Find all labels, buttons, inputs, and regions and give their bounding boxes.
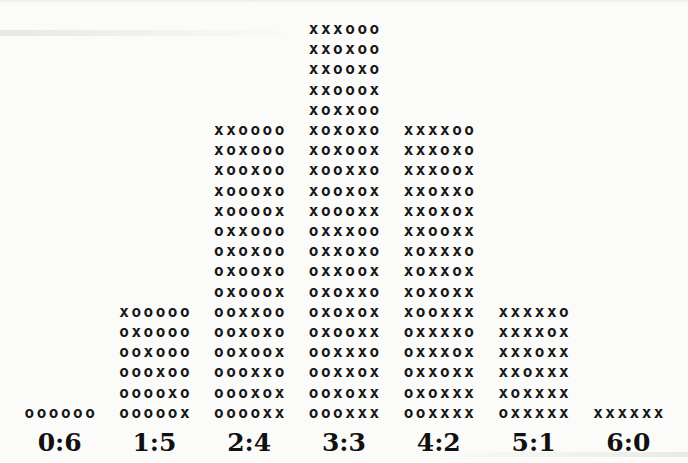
arrangement-row: oxxxxx [496,403,571,423]
arrangement-stack: xxooooxoxoooxooxooxoooxoxooooxoxxooooxox… [212,120,287,423]
arrangement-row: xxoxoo [306,39,381,59]
arrangement-row: ooxxox [306,362,381,382]
arrangement-stack: xooooooxooooooxooooooxooooooxoooooox [117,302,192,423]
arrangement-row: xoooxo [212,181,287,201]
arrangement-row: xoxoox [306,140,381,160]
arrangement-row: oooxox [212,383,287,403]
column-4-2: xxxxooxxxoxoxxxooxxxoxxoxxoxoxxxooxxxoxx… [401,120,476,455]
arrangement-row: xoxxoo [306,100,381,120]
arrangement-row: xoooox [212,201,287,221]
arrangement-row: oooxxx [306,403,381,423]
column-3-3: xxxoooxxoxooxxooxoxxoooxxoxxooxoxoxoxoxo… [306,19,381,455]
arrangement-row: oxoxoo [212,241,287,261]
arrangement-row: oxxxxo [401,322,476,342]
arrangement-row: xoxxox [401,261,476,281]
arrangement-row: oxxxox [401,342,476,362]
arrangement-row: oxoxox [306,302,381,322]
arrangement-row: oooooo [22,403,97,423]
figure-canvas: oooooo0:6xooooooxooooooxooooooxooooooxoo… [0,0,688,463]
arrangement-row: xooxxo [306,160,381,180]
arrangement-row: oxxoxx [401,362,476,382]
column-label: 6:0 [606,430,650,455]
arrangement-row: oxoxxx [401,383,476,403]
arrangement-row: xooxxx [401,302,476,322]
arrangement-row: oooxxo [212,362,287,382]
arrangement-row: xxxoxo [401,140,476,160]
arrangement-row: oxooox [212,282,287,302]
column-0-6: oooooo0:6 [22,403,97,455]
arrangement-stack: xxxxxoxxxxoxxxxoxxxxoxxxxoxxxxoxxxxx [496,302,571,423]
arrangement-row: xooooo [117,302,192,322]
arrangement-row: ooxxxx [401,403,476,423]
arrangement-dotplot: oooooo0:6xooooooxooooooxooooooxooooooxoo… [22,10,666,455]
arrangement-row: xxxxoo [401,120,476,140]
arrangement-stack: xxxoooxxoxooxxooxoxxoooxxoxxooxoxoxoxoxo… [306,19,381,423]
arrangement-row: xoxoxo [306,120,381,140]
arrangement-row: oxooxo [212,261,287,281]
arrangement-row: xxxxxx [591,403,666,423]
arrangement-row: xooxoo [212,160,287,180]
arrangement-row: xxooxo [306,59,381,79]
column-2-4: xxooooxoxoooxooxooxoooxoxooooxoxxooooxox… [212,120,287,455]
column-label: 4:2 [417,430,461,455]
arrangement-row: xxooox [306,80,381,100]
arrangement-row: xoxxxx [496,383,571,403]
arrangement-row: oxoooo [117,322,192,342]
arrangement-row: ooooxo [117,383,192,403]
column-label: 1:5 [132,430,176,455]
arrangement-row: ooooxx [212,403,287,423]
arrangement-row: xoooxx [306,201,381,221]
arrangement-row: oxxoox [306,261,381,281]
arrangement-row: oxxxoo [306,221,381,241]
arrangement-row: xxxxox [496,322,571,342]
arrangement-row: ooxxxo [306,342,381,362]
arrangement-row: oxxoxo [306,241,381,261]
arrangement-stack: xxxxooxxxoxoxxxooxxxoxxoxxoxoxxxooxxxoxx… [401,120,476,423]
column-label: 5:1 [512,430,556,455]
column-5-1: xxxxxoxxxxoxxxxoxxxxoxxxxoxxxxoxxxxx5:1 [496,302,571,455]
arrangement-row: xxxoox [401,160,476,180]
arrangement-row: xxxoxx [496,342,571,362]
arrangement-row: ooxooo [117,342,192,362]
column-label: 2:4 [227,430,271,455]
arrangement-row: ooxoxx [306,383,381,403]
arrangement-row: xxooxx [401,221,476,241]
arrangement-row: xxxooo [306,19,381,39]
arrangement-row: oxooxx [306,322,381,342]
arrangement-row: xxxxxo [496,302,571,322]
arrangement-row: oxxooo [212,221,287,241]
arrangement-row: xxoxxx [496,362,571,382]
column-label: 0:6 [38,430,82,455]
arrangement-row: xoxxxo [401,241,476,261]
arrangement-stack: xxxxxx [591,403,666,423]
arrangement-row: xxoooo [212,120,287,140]
arrangement-row: ooxoxo [212,322,287,342]
column-1-5: xooooooxooooooxooooooxooooooxoooooox1:5 [117,302,192,455]
arrangement-row: xxoxxo [401,181,476,201]
column-label: 3:3 [322,430,366,455]
arrangement-row: ooooox [117,403,192,423]
arrangement-row: oxoxxo [306,282,381,302]
arrangement-row: xxoxox [401,201,476,221]
column-6-0: xxxxxx6:0 [591,403,666,455]
arrangement-row: xoxooo [212,140,287,160]
arrangement-row: ooxxoo [212,302,287,322]
arrangement-row: xooxox [306,181,381,201]
arrangement-stack: oooooo [22,403,97,423]
arrangement-row: oooxoo [117,362,192,382]
arrangement-row: ooxoox [212,342,287,362]
arrangement-row: xoxoxx [401,282,476,302]
